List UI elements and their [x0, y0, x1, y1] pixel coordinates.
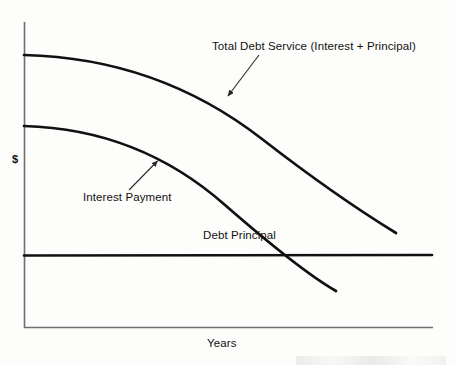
series-curve-interest-payment	[24, 126, 336, 291]
series-line-debt-principal	[24, 255, 432, 256]
leader-arrow-interest-payment	[129, 161, 158, 190]
series-curve-total-debt-service	[24, 55, 396, 233]
chart-canvas	[0, 0, 455, 365]
leader-arrow-total-debt-service	[228, 55, 259, 96]
debt-service-figure: Total Debt Service (Interest + Principal…	[0, 0, 455, 365]
series-label-interest-payment: Interest Payment	[83, 191, 172, 204]
series-label-total-debt-service: Total Debt Service (Interest + Principal…	[212, 40, 416, 53]
y-axis-label: $	[12, 153, 18, 166]
series-label-debt-principal: Debt Principal	[203, 229, 276, 242]
scan-artifact	[296, 356, 446, 365]
x-axis-label: Years	[207, 337, 237, 350]
